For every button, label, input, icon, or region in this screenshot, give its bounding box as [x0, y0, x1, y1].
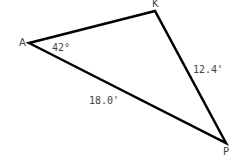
vertex-label-a: A [19, 37, 26, 48]
vertex-label-k: K [152, 0, 159, 9]
side-kp-label: 12.4' [193, 64, 223, 75]
triangle-akp [29, 11, 226, 143]
angle-a-label: 42° [52, 42, 70, 53]
triangle-diagram: A K P 42° 12.4' 18.0' [0, 0, 242, 156]
side-ap-label: 18.0' [89, 95, 119, 106]
vertex-label-p: P [223, 146, 229, 156]
